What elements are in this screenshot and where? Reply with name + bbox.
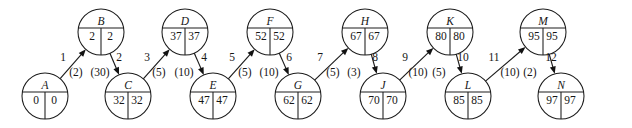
node-label-f: F [265, 15, 274, 27]
edge-ordinal-2: 2 [116, 51, 122, 63]
edge-ordinal-8: 8 [372, 51, 378, 63]
node-right-value-n: 97 [564, 94, 576, 106]
node-j[interactable]: J7070 [360, 73, 406, 119]
node-b[interactable]: B22 [78, 9, 124, 55]
node-left-value-m: 95 [528, 30, 540, 42]
node-label-l: L [464, 79, 471, 91]
edge-ordinal-6: 6 [286, 51, 292, 63]
node-label-n: N [556, 79, 566, 91]
node-d[interactable]: D3737 [162, 9, 208, 55]
edge-weight-b-c: (30) [90, 66, 109, 79]
arrow-head-icon [283, 67, 289, 75]
node-label-g: G [294, 79, 303, 91]
node-c[interactable]: C3232 [105, 73, 151, 119]
graph-svg: A00B22C3232D3737E4747F5252G6262H6767J707… [0, 0, 632, 128]
edge-weight-g-h: (5) [326, 66, 340, 79]
node-label-m: M [537, 15, 549, 27]
arrow-head-icon [198, 67, 204, 75]
arrow-head-icon [372, 66, 378, 74]
node-l[interactable]: L8585 [445, 73, 491, 119]
node-left-value-c: 32 [113, 94, 125, 106]
node-right-value-j: 70 [386, 94, 398, 106]
node-right-value-a: 0 [51, 94, 57, 106]
edge-ordinal-5: 5 [229, 51, 235, 63]
arrow-head-icon [113, 67, 119, 75]
node-left-value-l: 85 [453, 94, 465, 106]
node-left-value-f: 52 [255, 30, 267, 42]
edge-weight-d-e: (10) [174, 66, 193, 79]
node-label-a: A [40, 79, 49, 91]
node-m[interactable]: M9595 [520, 9, 566, 55]
edge-ordinal-1: 1 [60, 51, 66, 63]
node-right-value-d: 37 [188, 30, 200, 42]
arrow-head-icon [550, 66, 556, 74]
node-f[interactable]: F5252 [247, 9, 293, 55]
edge-weight-a-b: (2) [69, 66, 83, 79]
edge-ordinal-3: 3 [144, 51, 150, 63]
node-label-j: J [380, 79, 386, 91]
node-g[interactable]: G6262 [275, 73, 321, 119]
node-h[interactable]: H6767 [342, 9, 388, 55]
edge-ordinal-4: 4 [201, 51, 207, 63]
node-left-value-a: 0 [33, 94, 39, 106]
node-k[interactable]: K8080 [427, 9, 473, 55]
edge-ordinal-9: 9 [402, 51, 408, 63]
node-label-h: H [360, 15, 370, 27]
node-right-value-b: 2 [107, 30, 113, 42]
node-left-value-b: 2 [89, 30, 95, 42]
node-layer: A00B22C3232D3737E4747F5252G6262H6767J707… [22, 9, 584, 119]
node-left-value-j: 70 [368, 94, 380, 106]
node-label-e: E [208, 79, 216, 91]
edge-ordinal-12: 12 [545, 51, 557, 63]
node-label-c: C [124, 79, 132, 91]
node-label-b: B [97, 15, 104, 27]
node-left-value-n: 97 [546, 94, 558, 106]
edge-weight-j-k: (10) [408, 66, 427, 79]
edge-ordinal-7: 7 [317, 51, 323, 63]
node-right-value-e: 47 [216, 94, 228, 106]
arrow-head-icon [457, 66, 463, 74]
edge-weight-m-n: (2) [523, 66, 537, 79]
node-right-value-k: 80 [453, 30, 465, 42]
edge-weight-c-d: (5) [152, 66, 166, 79]
node-right-value-l: 85 [471, 94, 483, 106]
edge-weight-h-j: (3) [347, 66, 361, 79]
node-left-value-e: 47 [198, 94, 210, 106]
node-left-value-h: 67 [350, 30, 362, 42]
node-e[interactable]: E4747 [190, 73, 236, 119]
edge-weight-e-f: (5) [238, 66, 252, 79]
node-a[interactable]: A00 [22, 73, 68, 119]
node-left-value-k: 80 [435, 30, 447, 42]
node-right-value-h: 67 [368, 30, 380, 42]
node-right-value-g: 62 [301, 94, 313, 106]
diagram-canvas: A00B22C3232D3737E4747F5252G6262H6767J707… [0, 0, 632, 128]
node-label-k: K [445, 15, 455, 27]
node-left-value-g: 62 [283, 94, 295, 106]
edge-ordinal-10: 10 [457, 51, 469, 63]
node-right-value-f: 52 [273, 30, 285, 42]
node-left-value-d: 37 [170, 30, 182, 42]
edge-ordinal-11: 11 [488, 51, 499, 63]
node-n[interactable]: N9797 [538, 73, 584, 119]
node-right-value-c: 32 [131, 94, 143, 106]
edge-weight-f-g: (10) [259, 66, 278, 79]
node-right-value-m: 95 [546, 30, 558, 42]
edge-weight-l-m: (10) [500, 66, 519, 79]
edge-weight-k-l: (5) [432, 66, 446, 79]
node-label-d: D [180, 15, 190, 27]
